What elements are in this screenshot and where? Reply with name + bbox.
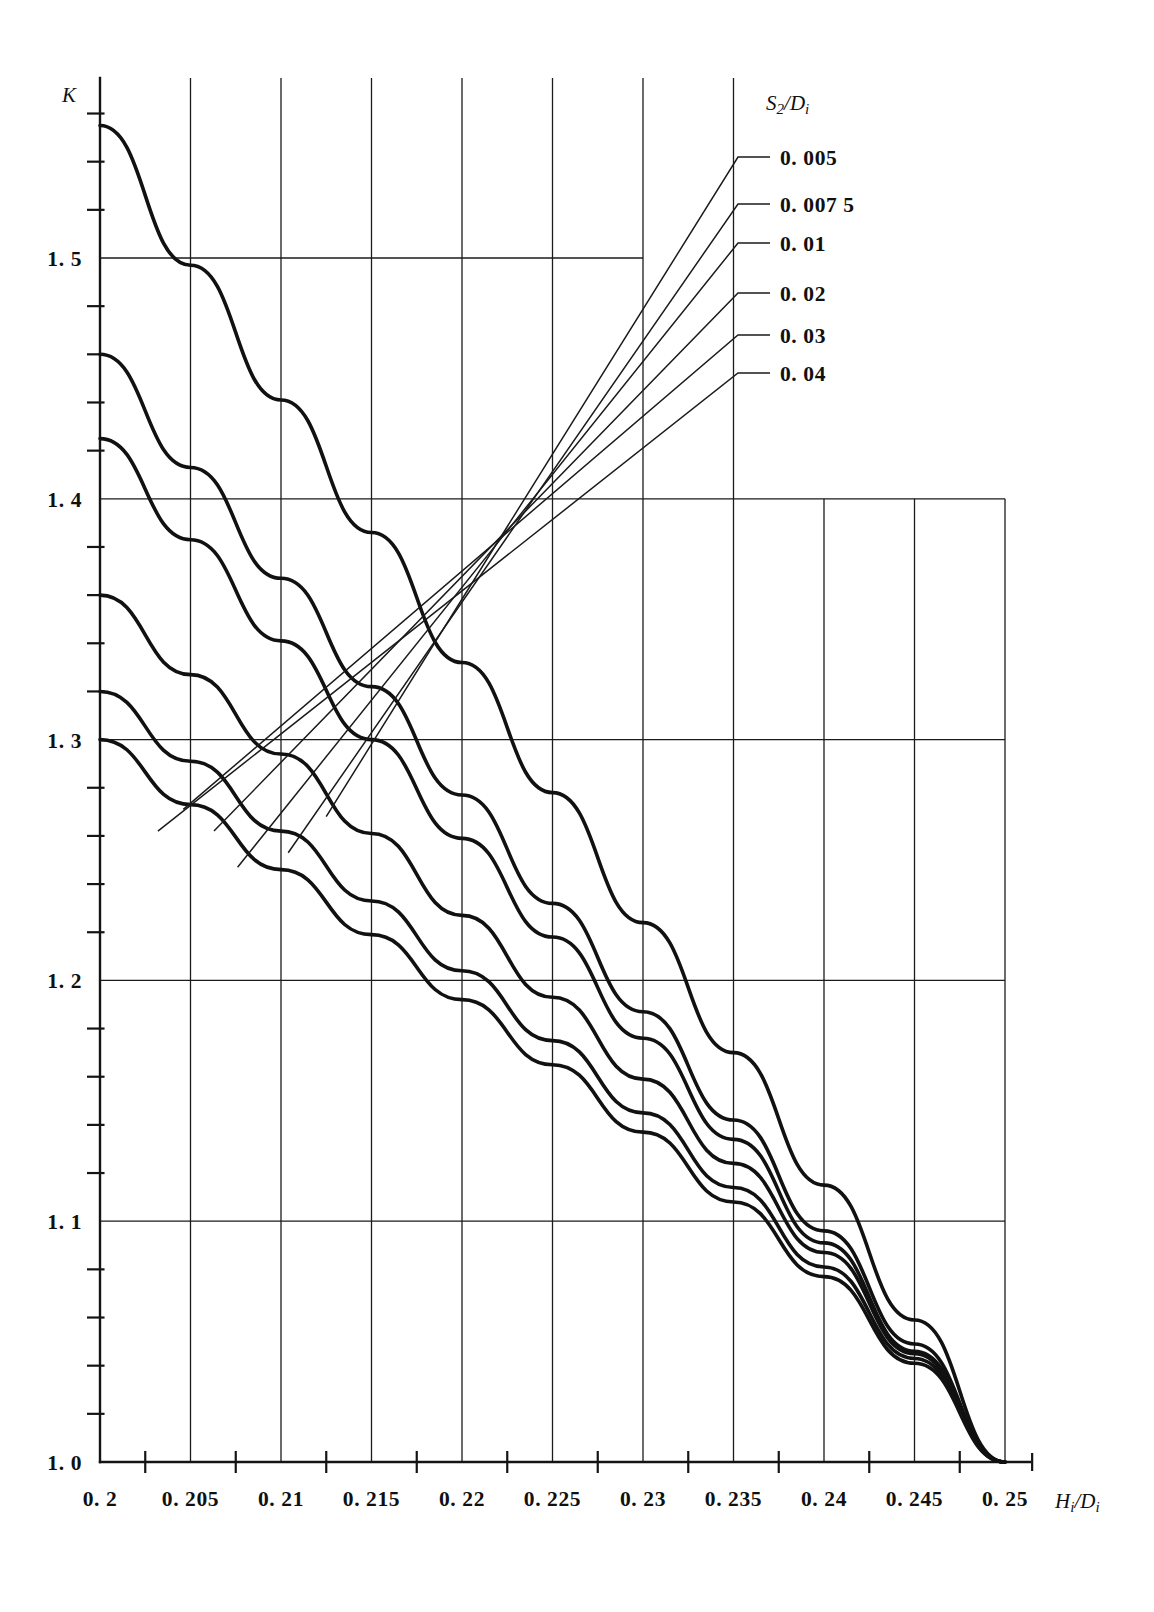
legend-label: 0. 02 [780, 282, 826, 306]
x-tick-label: 0. 225 [524, 1487, 581, 1511]
legend-label: 0. 005 [780, 146, 837, 170]
chart-canvas: 0. 20. 2050. 210. 2150. 220. 2250. 230. … [0, 0, 1154, 1612]
x-tick-label: 0. 25 [982, 1487, 1028, 1511]
legend-label: 0. 04 [780, 362, 826, 386]
legend-label: 0. 01 [780, 232, 826, 256]
x-axis-title-denominator: D [1079, 1489, 1095, 1513]
legend-title-denominator: D [789, 91, 805, 115]
x-tick-label: 0. 23 [620, 1487, 666, 1511]
legend-label: 0. 007 5 [780, 193, 855, 217]
y-tick-label: 1. 4 [47, 488, 82, 512]
x-tick-label: 0. 235 [705, 1487, 762, 1511]
legend-label: 0. 03 [780, 324, 826, 348]
legend-title-denominator-sub: i [805, 101, 809, 117]
chart-figure: 0. 20. 2050. 210. 2150. 220. 2250. 230. … [0, 0, 1154, 1612]
legend-title-numerator: S [766, 91, 777, 115]
x-tick-label: 0. 245 [886, 1487, 943, 1511]
y-tick-label: 1. 0 [47, 1451, 82, 1475]
x-tick-label: 0. 215 [343, 1487, 400, 1511]
x-tick-label: 0. 21 [258, 1487, 304, 1511]
x-tick-label: 0. 205 [162, 1487, 219, 1511]
x-tick-label: 0. 22 [439, 1487, 485, 1511]
y-axis-title: K [61, 83, 77, 107]
svg-text:Hi/Di: Hi/Di [1054, 1489, 1100, 1515]
y-tick-label: 1. 2 [47, 969, 82, 993]
legend-title: S2/Di [766, 91, 809, 117]
y-tick-label: 1. 1 [47, 1210, 82, 1234]
y-tick-label: 1. 3 [47, 729, 82, 753]
x-axis-title: Hi/Di [1054, 1489, 1100, 1515]
y-tick-label: 1. 5 [47, 247, 82, 271]
x-axis-title-denominator-sub: i [1095, 1499, 1099, 1515]
x-tick-label: 0. 24 [801, 1487, 847, 1511]
svg-text:S2/Di: S2/Di [766, 91, 809, 117]
x-tick-label: 0. 2 [83, 1487, 118, 1511]
